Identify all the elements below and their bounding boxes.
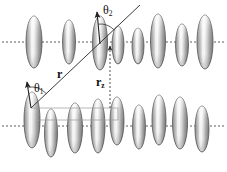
rz-vector-subscript: z (101, 81, 104, 90)
molecule-highlight (135, 32, 137, 61)
theta2-label: θ2 (103, 4, 112, 16)
bottom-molecule-2 (68, 103, 83, 153)
bottom-molecule-0 (24, 92, 40, 148)
top-molecule-7 (197, 15, 213, 69)
bottom-layer-molecules (24, 92, 209, 157)
r-vector-label: r (57, 68, 62, 80)
molecule-shading (91, 99, 105, 153)
bottom-molecule-5 (133, 105, 146, 149)
molecule-shading (45, 109, 58, 157)
theta2-symbol: θ (103, 3, 109, 17)
molecule-shading (151, 14, 166, 68)
molecule-highlight (48, 114, 51, 152)
molecule-highlight (95, 104, 98, 147)
bottom-molecule-8 (195, 106, 209, 152)
molecule-shading (173, 97, 188, 149)
theta1-subscript: 1 (40, 87, 44, 96)
top-molecule-6 (176, 24, 189, 66)
molecule-highlight (136, 109, 139, 144)
molecule-highlight (155, 19, 158, 62)
molecule-highlight (115, 30, 117, 60)
r-vector-symbol: r (57, 67, 62, 81)
molecule-highlight (66, 24, 69, 59)
molecule-highlight (114, 102, 117, 140)
bottom-molecule-3 (91, 99, 105, 153)
top-molecule-3 (112, 26, 124, 64)
molecule-shading (68, 103, 83, 153)
molecule-highlight (177, 102, 180, 144)
molecule-highlight (31, 21, 34, 63)
r-vector-line (31, 5, 140, 108)
bottom-molecule-7 (173, 97, 188, 149)
top-molecule-4 (132, 28, 144, 64)
molecule-highlight (179, 28, 182, 62)
molecule-shading (132, 28, 144, 64)
diagram-canvas: θ1 θ2 r rz (0, 0, 227, 172)
molecule-shading (152, 95, 166, 145)
molecule-highlight (72, 108, 75, 148)
rz-vector-label: rz (96, 76, 105, 88)
top-molecule-5 (151, 14, 166, 68)
molecule-shading (110, 97, 124, 145)
molecule-highlight (156, 100, 159, 140)
molecule-highlight (202, 20, 205, 63)
molecule-shading (197, 15, 213, 69)
molecule-shading (112, 26, 124, 64)
top-molecule-1 (63, 20, 76, 64)
bottom-molecule-1 (45, 109, 58, 157)
molecule-shading (63, 20, 76, 64)
top-molecule-0 (26, 16, 42, 68)
molecule-highlight (199, 111, 202, 148)
theta2-subscript: 2 (109, 9, 113, 18)
molecule-shading (24, 92, 40, 148)
molecule-shading (195, 106, 209, 152)
bottom-molecule-4 (110, 97, 124, 145)
bottom-molecule-6 (152, 95, 166, 145)
molecule-shading (176, 24, 189, 66)
theta1-symbol: θ (34, 81, 40, 95)
molecule-shading (133, 105, 146, 149)
molecule-shading (26, 16, 42, 68)
theta1-label: θ1 (34, 82, 43, 94)
